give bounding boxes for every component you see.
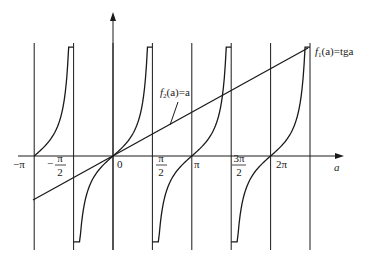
tangent-curve-f1	[34, 47, 310, 242]
tick-neg-half-pi-num: π	[57, 152, 63, 164]
tick-half-pi-den: 2	[158, 166, 164, 178]
f2-label: f2(a)=a	[160, 86, 190, 100]
tick-label-neg-pi: −π	[13, 158, 25, 170]
tick-label-three-half-pi: 3π 2	[232, 152, 246, 178]
f1-label-rest: (a)=tga	[322, 45, 354, 58]
tick-label-pi: π	[194, 158, 200, 170]
tick-three-half-pi-num: 3π	[233, 152, 245, 164]
tick-half-pi-num: π	[158, 152, 164, 164]
tick-neg-half-pi-den: 2	[57, 166, 63, 178]
plot-svg: f1(a)=tga f2(a)=a a −π − π 2 0 π 2 π 3π …	[0, 0, 383, 266]
y-axis-arrow-icon	[110, 12, 116, 21]
axes	[18, 12, 344, 250]
f2-label-rest: (a)=a	[167, 86, 190, 99]
tangent-branch	[34, 47, 73, 156]
tick-neg-half-pi-sign: −	[47, 157, 53, 169]
f1-label: f1(a)=tga	[315, 45, 354, 59]
tick-three-half-pi-den: 2	[236, 166, 242, 178]
tick-label-two-pi: 2π	[276, 158, 288, 170]
diagram-canvas: f1(a)=tga f2(a)=a a −π − π 2 0 π 2 π 3π …	[0, 0, 383, 266]
tick-label-zero: 0	[117, 158, 123, 170]
x-axis-label: a	[334, 161, 340, 173]
vertical-reference-lines	[34, 43, 310, 250]
x-axis-arrow-icon	[335, 153, 344, 159]
